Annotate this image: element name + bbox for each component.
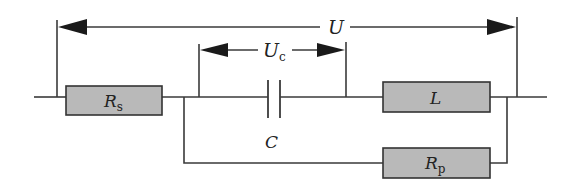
arrow-left-icon [200, 43, 228, 57]
u-label: U [328, 16, 345, 38]
series-resistor-rs: Rs [66, 86, 162, 115]
circuit-diagram: Rs C L Rp U Uc [0, 0, 571, 190]
arrow-right-icon [487, 19, 516, 35]
l-label: L [429, 88, 441, 108]
c-label: C [265, 132, 278, 152]
capacitor-c: C [265, 80, 280, 152]
uc-label: Uc [263, 39, 286, 64]
arrow-left-icon [58, 19, 87, 35]
arrow-right-icon [317, 43, 345, 57]
parallel-resistor-rp: Rp [383, 148, 490, 178]
voltage-uc-arrow: Uc [199, 39, 346, 97]
inductor-l: L [383, 82, 490, 112]
